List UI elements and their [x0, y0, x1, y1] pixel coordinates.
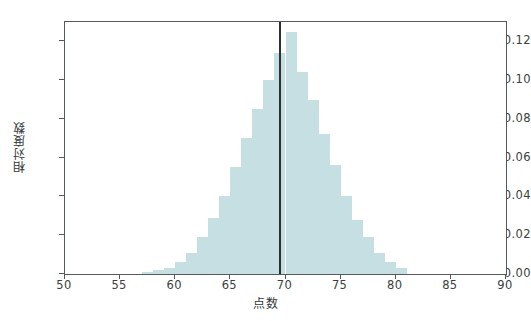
histogram-bar — [230, 167, 241, 274]
histogram-bar — [319, 134, 330, 274]
x-axis-tick-mark — [450, 274, 451, 279]
histogram-bar — [153, 270, 164, 274]
x-axis-tick-label: 50 — [56, 278, 71, 292]
x-axis-tick-label: 65 — [222, 278, 237, 292]
y-axis-title: 相対度数 — [11, 121, 28, 173]
x-axis-tick-label: 90 — [497, 278, 512, 292]
x-axis-tick-label: 70 — [277, 278, 292, 292]
histogram-bar — [197, 237, 208, 274]
y-axis-title-wrap: 相対度数 — [8, 21, 30, 273]
histogram-bar — [396, 268, 407, 274]
x-axis-tick-mark — [395, 274, 396, 279]
histogram-bar — [385, 262, 396, 274]
histogram-bar — [286, 32, 297, 274]
plot-area — [64, 21, 507, 275]
histogram-bar — [297, 72, 308, 274]
x-axis-tick-mark — [174, 274, 175, 279]
x-axis-title: 点数 — [0, 294, 531, 311]
histogram-bar — [241, 138, 252, 274]
x-axis-tick-mark — [229, 274, 230, 279]
histogram-bar — [252, 109, 263, 274]
histogram-bar — [330, 165, 341, 274]
mean-vline-annotation — [279, 21, 280, 274]
x-axis-tick-mark — [64, 274, 65, 279]
histogram-figure: 相対度数 0.000.020.040.060.080.100.12 505560… — [0, 0, 531, 321]
x-axis-tick-mark — [119, 274, 120, 279]
x-axis-tick-label: 55 — [111, 278, 126, 292]
histogram-bar — [352, 220, 363, 274]
histogram-bar — [142, 272, 153, 274]
histogram-bar — [341, 196, 352, 274]
histogram-bars — [65, 22, 506, 274]
x-axis-tick-mark — [340, 274, 341, 279]
histogram-bar — [175, 262, 186, 274]
histogram-bar — [263, 80, 274, 274]
histogram-bar — [186, 253, 197, 274]
x-axis-tick-label: 60 — [167, 278, 182, 292]
x-axis-tick-label: 80 — [387, 278, 402, 292]
histogram-bar — [308, 100, 319, 274]
x-axis-tick-label: 85 — [442, 278, 457, 292]
x-axis-tick-label: 75 — [332, 278, 347, 292]
histogram-bar — [363, 237, 374, 274]
histogram-bar — [374, 253, 385, 274]
x-axis-tick-mark — [505, 274, 506, 279]
histogram-bar — [208, 218, 219, 274]
histogram-bar — [219, 196, 230, 274]
x-axis-tick-mark — [285, 274, 286, 279]
